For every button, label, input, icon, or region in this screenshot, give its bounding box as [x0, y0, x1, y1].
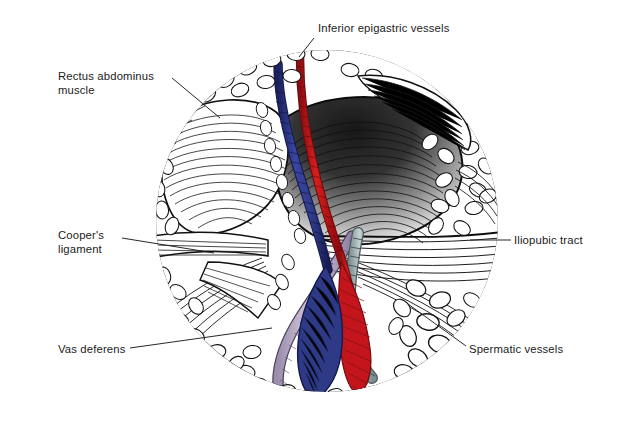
label-inferior-epigastric-vessels: Inferior epigastric vessels [318, 21, 450, 35]
anatomical-figure [0, 0, 628, 423]
label-coopers-ligament: Cooper's ligament [58, 228, 128, 256]
figure-canvas [0, 0, 628, 423]
label-iliopubic-tract: Iliopubic tract [514, 233, 583, 247]
label-rectus-abdominus-muscle: Rectus abdominus muscle [58, 69, 188, 97]
label-spermatic-vessels: Spermatic vessels [469, 342, 563, 356]
label-vas-deferens: Vas deferens [58, 342, 126, 356]
figure-page: Inferior epigastric vessels Rectus abdom… [0, 0, 628, 423]
